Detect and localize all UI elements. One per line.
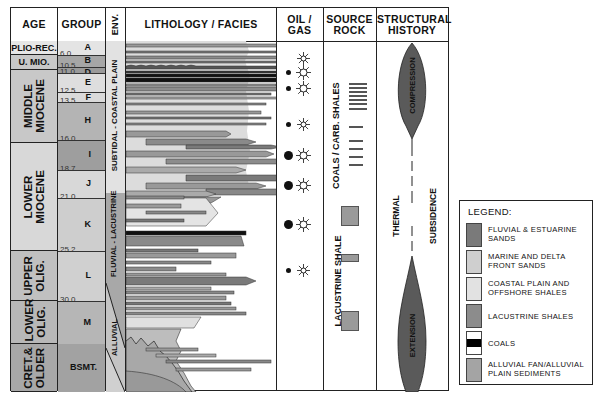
header-env: ENV. xyxy=(106,8,125,41)
age-label: UPPER OLIG. xyxy=(22,253,46,299)
compression-label: COMPRESSION xyxy=(408,56,417,116)
group-cell: BSMT. xyxy=(58,344,105,392)
divider-group-env xyxy=(105,8,106,390)
oil-occurrence-icon xyxy=(286,268,291,273)
gas-occurrence-icon xyxy=(296,263,311,278)
oil-occurrence-icon xyxy=(286,86,291,91)
coals-carb-shales-label: COALS / CARB. SHALES xyxy=(331,83,341,189)
header-age: AGE xyxy=(11,8,57,41)
legend-swatch xyxy=(466,331,482,355)
divider-oilgas-source xyxy=(323,8,324,390)
lacustrine-source-block-3 xyxy=(341,311,359,331)
lacustrine-source-block-1 xyxy=(341,206,359,226)
group-age-label: 11.0 xyxy=(60,67,75,76)
group-age-label: 6.0 xyxy=(60,49,71,58)
age-cell: U. MIO. xyxy=(11,55,57,70)
legend-item: FLUVIAL & ESTUARINE SANDS xyxy=(466,223,590,248)
gas-occurrence-icon xyxy=(295,80,312,97)
age-label: MIDDLE MIOCENE xyxy=(22,79,46,133)
group-age-label: 13.5 xyxy=(60,96,76,105)
legend-item: LACUSTRINE SHALES xyxy=(466,304,590,329)
group-letter: L xyxy=(86,270,92,280)
oil-occurrence-icon xyxy=(284,181,293,190)
age-cell: CRET.& OLDER xyxy=(11,344,57,392)
oil-gas-column xyxy=(276,8,323,392)
age-label: LOWER OLIG. xyxy=(22,303,46,342)
gas-occurrence-icon xyxy=(295,177,312,194)
group-cell: M xyxy=(58,301,105,344)
header-group: GROUP xyxy=(58,8,105,41)
age-cell: LOWER OLIG. xyxy=(11,301,57,344)
divider-lithology-oilgas xyxy=(276,8,277,390)
legend-item: COASTAL PLAIN AND OFFSHORE SHALES xyxy=(466,277,590,302)
age-cell: MIDDLE MIOCENE xyxy=(11,70,57,143)
group-letter: A xyxy=(85,42,92,52)
legend-label: ALLUVIAL FAN/ALLUVIAL PLAIN SEDIMENTS xyxy=(488,360,590,378)
stratigraphic-column-chart: AGE GROUP ENV. LITHOLOGY / FACIES OIL / … xyxy=(10,7,449,391)
divider-age-group xyxy=(57,8,58,390)
oil-occurrence-icon xyxy=(286,70,291,75)
divider-source-structural xyxy=(376,8,377,390)
extension-label: EXTENSION xyxy=(408,311,417,361)
legend-label: LACUSTRINE SHALES xyxy=(488,312,573,321)
oil-occurrence-icon xyxy=(284,151,293,160)
age-label: PLIO-REC. xyxy=(11,43,57,53)
header-structural-history: STRUCTURAL HISTORY xyxy=(376,8,448,41)
group-age-label: 12.5 xyxy=(60,86,76,95)
header-source-rock: SOURCE ROCK xyxy=(323,8,376,41)
group-letter: I xyxy=(88,149,91,159)
group-letter: M xyxy=(84,317,92,327)
gas-occurrence-icon xyxy=(295,64,312,81)
group-letter: H xyxy=(85,115,92,125)
age-cell: PLIO-REC. xyxy=(11,41,57,55)
legend-swatch xyxy=(466,358,482,382)
group-letter: B xyxy=(85,55,92,65)
age-label: CRET.& OLDER xyxy=(22,346,46,390)
oil-occurrence-icon xyxy=(286,122,291,127)
legend-title: LEGEND: xyxy=(468,206,512,217)
group-letter: E xyxy=(85,77,91,87)
group-cell: L xyxy=(58,251,105,301)
source-rock-column: COALS / CARB. SHALES LACUSTRINE SHALE xyxy=(323,41,376,392)
structural-history-column: COMPRESSION THERMAL SUBSIDENCE EXTENSION xyxy=(376,41,448,392)
group-cell: K xyxy=(58,198,105,251)
legend-swatch xyxy=(466,250,482,274)
legend-label: COALS xyxy=(488,339,515,348)
gas-occurrence-icon xyxy=(295,147,312,164)
divider-env-lithology xyxy=(125,8,126,390)
subsidence-label: SUBSIDENCE xyxy=(428,181,438,251)
group-age-label: 21.0 xyxy=(60,192,76,201)
env-fluvial-lacustrine-alluvial: FLUVIAL - LACUSTRINE ALLUVIAL xyxy=(106,193,125,392)
oil-occurrence-icon xyxy=(284,220,293,229)
age-label: LOWER MIOCENE xyxy=(22,170,46,224)
legend-swatch xyxy=(466,304,482,328)
group-letter: F xyxy=(86,92,92,102)
lacustrine-source-block-2 xyxy=(341,254,359,262)
legend-label: COASTAL PLAIN AND OFFSHORE SHALES xyxy=(488,279,590,297)
legend: LEGEND: FLUVIAL & ESTUARINE SANDSMARINE … xyxy=(459,200,593,385)
group-age-label: 25.2 xyxy=(60,245,76,254)
group-age-label: 18.7 xyxy=(60,164,76,173)
legend-item: ALLUVIAL FAN/ALLUVIAL PLAIN SEDIMENTS xyxy=(466,358,590,383)
legend-swatch xyxy=(466,223,482,247)
gas-occurrence-icon xyxy=(296,117,311,132)
age-label: U. MIO. xyxy=(19,57,50,67)
header-lithology: LITHOLOGY / FACIES xyxy=(126,8,276,41)
age-cell: UPPER OLIG. xyxy=(11,251,57,301)
legend-item: MARINE AND DELTA FRONT SANDS xyxy=(466,250,590,275)
group-letter: K xyxy=(85,219,92,229)
group-letter: BSMT. xyxy=(70,362,97,372)
group-age-label: 16.0 xyxy=(60,134,76,143)
legend-label: MARINE AND DELTA FRONT SANDS xyxy=(488,252,590,270)
group-age-label: 30.0 xyxy=(60,295,76,304)
legend-item: COALS xyxy=(466,331,590,356)
lithology-facies-log xyxy=(126,41,276,392)
age-cell: LOWER MIOCENE xyxy=(11,143,57,251)
env-subtidal-coastal-plain: SUBTIDAL - COASTAL PLAIN xyxy=(106,41,125,193)
legend-label: FLUVIAL & ESTUARINE SANDS xyxy=(488,225,590,243)
gas-occurrence-icon xyxy=(295,216,312,233)
thermal-label: THERMAL xyxy=(391,186,401,246)
legend-swatch xyxy=(466,277,482,301)
group-letter: J xyxy=(86,178,91,188)
